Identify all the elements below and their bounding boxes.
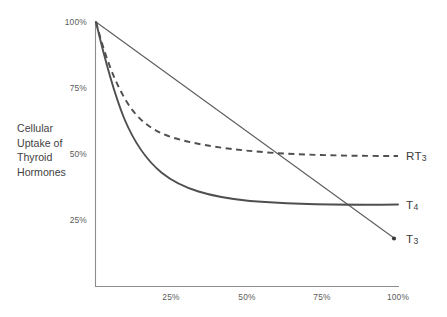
series-endpoint-dot-t3 xyxy=(392,236,396,240)
y-axis-title-line-4: Hormones xyxy=(17,165,66,180)
chart-container: 100% 75% 50% 25% 25% 50% 75% 100% Cellul… xyxy=(0,0,447,317)
y-axis-title-line-1: Cellular xyxy=(17,121,53,136)
x-tick-label-25: 25% xyxy=(151,292,191,302)
series-label-t3: T3 xyxy=(406,232,418,245)
y-axis-title-line-2: Uptake of xyxy=(17,136,62,151)
y-axis-title-line-3: Thyroid xyxy=(17,150,52,165)
x-tick-label-100: 100% xyxy=(376,292,420,302)
series-label-t3-sub: 3 xyxy=(413,236,418,246)
series-line-t4 xyxy=(96,22,398,205)
y-tick-label-25: 25% xyxy=(42,215,87,225)
series-label-t4-sub: 4 xyxy=(413,202,418,212)
x-tick-label-75: 75% xyxy=(302,292,342,302)
series-label-rt3-sub: 3 xyxy=(422,153,427,163)
y-tick-label-100: 100% xyxy=(42,17,87,27)
series-label-t4: T4 xyxy=(406,198,418,211)
series-line-t3 xyxy=(96,22,394,238)
x-tick-label-50: 50% xyxy=(227,292,267,302)
series-label-rt3: RT3 xyxy=(406,149,427,162)
series-label-rt3-base: RT xyxy=(406,149,422,162)
y-tick-label-75: 75% xyxy=(42,83,87,93)
series-line-rt3 xyxy=(96,22,398,156)
